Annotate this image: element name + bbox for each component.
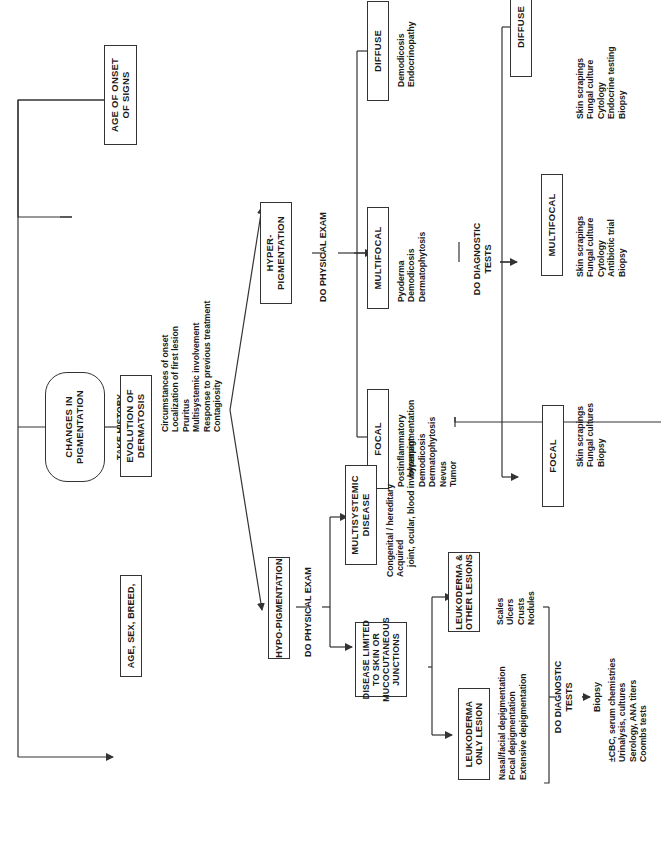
list-item: Biopsy	[617, 46, 627, 119]
list-item: Cytology	[596, 216, 606, 277]
box-evolution-of-dermatosis: EVOLUTION OF DERMATOSIS	[120, 375, 152, 477]
list-item: Ulcers	[505, 591, 515, 625]
hyper-multifocal-causes: Pyoderma Demodicosis Dermatophytosis	[396, 232, 427, 302]
list-item: Crusts	[516, 591, 526, 625]
hyper-tests-focal-list: Skin scrapings Fungal cultures Biopsy	[575, 403, 606, 467]
list-item: Fungal culture	[585, 46, 595, 119]
hyper-diffuse-causes: Demodicosis Endocrinopathy	[396, 22, 417, 87]
box-leukoderma-other-lesions: LEUKODERMA & OTHER LESIONS	[448, 552, 480, 632]
list-item: Scales	[495, 591, 505, 625]
list-item: ±CBC, serum chemistries	[607, 658, 617, 762]
list-item: Acquired	[395, 438, 405, 577]
flowchart-canvas: CHANGES IN PIGMENTATION TAKE HISTORY AGE…	[0, 0, 661, 857]
box-hyperpigmentation: HYPER- PIGMENTATION	[260, 202, 292, 304]
list-item: Localization of first lesion	[170, 301, 180, 432]
box-hyper-multifocal: MULTIFOCAL	[367, 207, 389, 309]
box-multisystemic-disease: MULTISYSTEMIC DISEASE	[345, 465, 377, 565]
multisystemic-causes: Congenital / hereditary Acquired joint, …	[385, 438, 416, 577]
box-age-sex-breed: AGE, SEX, BREED,	[120, 575, 142, 677]
box-hyper-tests-multifocal: MULTIFOCAL	[541, 174, 563, 276]
list-item: Response to previous treatment	[202, 301, 212, 432]
list-item: Dermatophytosis	[427, 400, 437, 487]
box-age-of-onset-of-signs: AGE OF ONSET OF SIGNS	[104, 45, 137, 145]
hyper-diagnostic-tests-label: DO DIAGNOSTIC TESTS	[472, 209, 494, 309]
box-disease-limited-to-skin: DISEASE LIMITED TO SKIN OR MUCOCUTANEOUS…	[355, 622, 407, 697]
box-hyper-diffuse: DIFFUSE	[367, 1, 389, 101]
list-item: Circumstances of onset	[160, 301, 170, 432]
list-item: Urinalysis, cultures	[617, 658, 627, 762]
list-item: joint, ocular, blood involvement	[406, 438, 416, 577]
list-item: Fungal cultures	[585, 403, 595, 467]
list-item: Demodicosis	[396, 22, 406, 87]
list-item: Skin scrapings	[575, 216, 585, 277]
evolution-of-dermatosis-list: Circumstances of onset Localization of f…	[160, 301, 223, 432]
hypo-tests-list: ±CBC, serum chemistries Urinalysis, cult…	[607, 658, 649, 762]
list-item: Nevus	[438, 400, 448, 487]
hypo-diagnostic-tests-label: DO DIAGNOSTIC TESTS	[553, 647, 575, 747]
hyper-tests-diffuse-list: Skin scrapings Fungal culture Cytology E…	[575, 46, 627, 119]
list-item: Skin scrapings	[575, 46, 585, 119]
list-item: Pruritus	[181, 301, 191, 432]
list-item: Biopsy	[617, 216, 627, 277]
list-item: Extensive depigmentation	[518, 666, 528, 780]
list-item: Demodicosis	[406, 232, 416, 302]
leukoderma-other-list: Scales Ulcers Crusts Nodules	[495, 591, 537, 625]
root-node-changes-in-pigmentation: CHANGES IN PIGMENTATION	[45, 372, 105, 482]
leukoderma-only-list: Nasal/facial depigmentation Focal depigm…	[497, 666, 528, 780]
box-hypopigmentation: HYPO-PIGMENTATION	[268, 557, 290, 659]
list-item: Skin scrapings	[575, 403, 585, 467]
hypo-physical-exam-label: DO PHYSICAL EXAM	[303, 567, 314, 657]
list-item: Pyoderma	[396, 232, 406, 302]
list-item: Coombs tests	[638, 658, 648, 762]
list-item: Demodicosis	[417, 400, 427, 487]
box-hyper-tests-focal: FOCAL	[542, 405, 564, 507]
list-item: Congenital / hereditary	[385, 438, 395, 577]
box-hyper-tests-diffuse: DIFFUSE	[510, 0, 532, 77]
list-item: Biopsy	[596, 403, 606, 467]
list-item: Serology, ANA titers	[628, 658, 638, 762]
list-item: Antibiotic trial	[606, 216, 616, 277]
hyper-physical-exam-label: DO PHYSICAL EXAM	[318, 212, 329, 302]
box-leukoderma-only-lesion: LEUKODERMA ONLY LESION	[458, 688, 490, 780]
list-item: Cytology	[596, 46, 606, 119]
hypo-biopsy-label: Biopsy	[592, 667, 603, 727]
list-item: Fungal culture	[585, 216, 595, 277]
list-item: Multisystemic involvement	[191, 301, 201, 432]
list-item: Nodules	[526, 591, 536, 625]
list-item: Endocrinopathy	[406, 22, 416, 87]
list-item: Nasal/facial depigmentation	[497, 666, 507, 780]
list-item: Tumor	[448, 400, 458, 487]
list-item: Endocrine testing	[606, 46, 616, 119]
list-item: Contagiosity	[212, 301, 222, 432]
list-item: Dermatophytosis	[417, 232, 427, 302]
hyper-tests-multifocal-list: Skin scrapings Fungal culture Cytology A…	[575, 216, 627, 277]
list-item: Focal depigmentation	[507, 666, 517, 780]
